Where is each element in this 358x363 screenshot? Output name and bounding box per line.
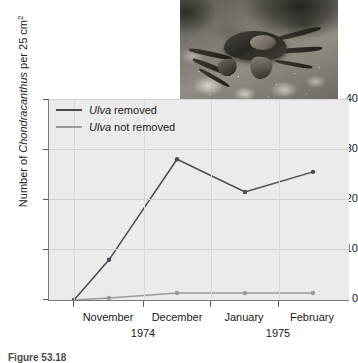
gridline-10 [49,249,349,250]
x-tick-label-december: December [152,311,203,323]
x-tick-mark-2 [143,301,144,307]
chart-legend: Ulva removed Ulva not removed [56,104,175,138]
legend-label-ulva-removed: Ulva removed [89,104,157,116]
y-axis-title-prefix: Number of [17,153,29,207]
y-axis-title-genus: Chondracanthus [17,72,29,153]
legend-rest-2: not removed [111,121,175,133]
y-axis-title-middle: per 25 cm [17,20,29,72]
legend-label-ulva-not-removed: Ulva not removed [89,121,175,133]
x-tick-label-february: February [290,311,334,323]
data-point [243,190,247,194]
figure-container: Number of Chondracanthus per 25 cm2 40 3… [0,0,358,363]
x-tick-mark-3 [210,301,211,307]
legend-rest-1: removed [111,104,157,116]
gridline-20 [49,199,349,200]
data-point [175,291,179,295]
data-point [311,170,315,174]
data-point [175,157,179,161]
data-point [107,258,111,262]
x-tick-label-november: November [83,311,134,323]
legend-genus-1: Ulva [89,104,111,116]
data-point [243,291,247,295]
legend-item-ulva-removed[interactable]: Ulva removed [56,104,175,116]
x-tick-mark-4 [278,301,279,307]
x-axis-year-1974: 1974 [131,327,155,339]
vgridline-3 [211,99,212,300]
legend-swatch-ulva-not-removed [56,126,82,128]
x-axis-year-1975: 1975 [266,327,290,339]
legend-item-ulva-not-removed[interactable]: Ulva not removed [56,121,175,133]
gridline-40 [49,99,349,100]
figure-caption: Figure 53.18 [8,352,66,363]
y-axis-title-superscript: 2 [16,16,25,20]
x-tick-mark-1 [73,301,74,307]
gridline-30 [49,149,349,150]
x-tick-label-january: January [224,311,263,323]
legend-swatch-ulva-removed [56,109,82,111]
legend-genus-2: Ulva [89,121,111,133]
vgridline-4 [279,99,280,300]
y-axis-title: Number of Chondracanthus per 25 cm2 [15,5,30,217]
data-point [311,291,315,295]
data-point [107,296,111,300]
series-line-ulva-removed [74,159,313,300]
line-chart: Number of Chondracanthus per 25 cm2 40 3… [0,0,358,363]
